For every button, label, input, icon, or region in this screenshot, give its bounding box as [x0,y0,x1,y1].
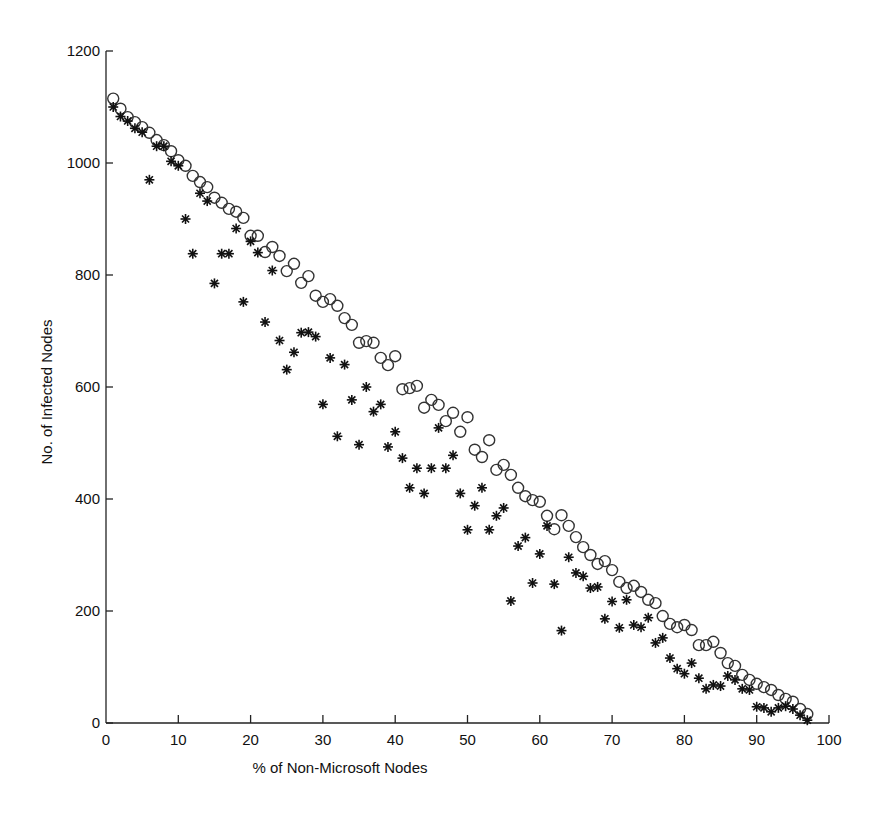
asterisk-marker [195,188,205,198]
asterisk-marker [173,161,183,171]
circle-marker [455,426,466,437]
circle-marker [238,212,249,223]
x-tick-label: 10 [170,731,187,748]
asterisk-marker [260,317,270,327]
circle-marker [317,296,328,307]
asterisk-marker [347,395,357,405]
asterisk-marker [159,141,169,151]
asterisk-marker [238,297,248,307]
y-tick-label: 1200 [67,42,100,59]
asterisk-marker [506,596,516,606]
asterisk-marker [332,431,342,441]
asterisk-marker [434,423,444,433]
asterisk-marker [123,116,133,126]
asterisk-marker [311,332,321,342]
asterisk-marker [752,702,762,712]
asterisk-marker [484,525,494,535]
asterisk-marker [231,224,241,234]
circle-marker [650,598,661,609]
asterisk-marker [383,442,393,452]
circle-marker [354,337,365,348]
asterisk-marker [318,399,328,409]
asterisk-marker [520,533,530,543]
asterisk-marker [303,327,313,337]
circle-marker [303,271,314,282]
asterisk-marker [600,614,610,624]
y-axis-title: No. of Infected Nodes [38,319,55,464]
asterisk-marker [528,578,538,588]
asterisk-marker [448,450,458,460]
circle-marker [708,636,719,647]
asterisk-marker [224,249,234,259]
x-tick-label: 90 [748,731,765,748]
asterisk-marker [369,407,379,417]
asterisk-marker [535,549,545,559]
circle-marker [592,558,603,569]
asterisk-marker [426,463,436,473]
y-tick-label: 600 [75,378,100,395]
x-tick-label: 0 [102,731,110,748]
x-tick-label: 30 [315,731,332,748]
asterisk-marker [325,353,335,363]
asterisk-marker [643,613,653,623]
asterisk-marker [397,453,407,463]
asterisk-marker [108,102,118,112]
circle-marker [563,520,574,531]
axes [106,51,829,723]
x-tick-label: 20 [242,731,259,748]
y-tick-label: 1000 [67,154,100,171]
asterisk-marker [650,638,660,648]
asterisk-marker [672,664,682,674]
asterisk-marker [773,703,783,713]
asterisk-marker [665,653,675,663]
asterisk-marker [463,525,473,535]
circle-marker [274,250,285,261]
circle-marker [411,380,422,391]
asterisk-marker [614,623,624,633]
asterisk-marker [542,521,552,531]
circle-marker [462,412,473,423]
y-tick-label: 800 [75,266,100,283]
asterisk-marker [593,582,603,592]
x-tick-label: 100 [816,731,841,748]
circle-marker [368,337,379,348]
circle-marker [722,658,733,669]
circle-marker [390,351,401,362]
circle-marker [476,452,487,463]
asterisk-marker [376,399,386,409]
asterisk-marker [491,511,501,521]
circle-marker [628,580,639,591]
circle-marker [325,294,336,305]
asterisk-marker [188,249,198,259]
circle-marker [542,510,553,521]
asterisk-marker [795,710,805,720]
asterisk-marker [275,336,285,346]
scatter-chart: 0102030405060708090100 02004006008001000… [0,0,889,813]
circle-marker [621,583,632,594]
asterisk-marker [267,266,277,276]
asterisk-marker [137,127,147,137]
circle-marker [252,230,263,241]
series-circles [108,93,813,719]
asterisk-marker [405,483,415,493]
circle-marker [715,648,726,659]
asterisk-marker [744,685,754,695]
circle-marker [758,682,769,693]
circle-marker [187,170,198,181]
asterisk-marker [412,463,422,473]
series-stars [108,102,812,725]
circle-marker [404,383,415,394]
asterisk-marker [354,440,364,450]
asterisk-marker [470,501,480,511]
circle-marker [296,277,307,288]
asterisk-marker [679,669,689,679]
circle-marker [448,407,459,418]
circle-marker [332,300,343,311]
asterisk-marker [687,658,697,668]
asterisk-marker [694,673,704,683]
x-tick-label: 80 [676,731,693,748]
x-tick-label: 40 [387,731,404,748]
asterisk-marker [556,626,566,636]
asterisk-marker [708,680,718,690]
circle-marker [361,336,372,347]
